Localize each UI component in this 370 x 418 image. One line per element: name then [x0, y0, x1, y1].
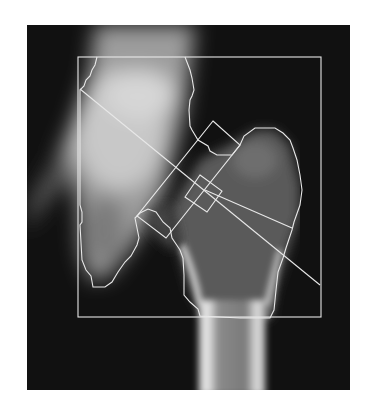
dxa-hip-scan [0, 0, 370, 418]
